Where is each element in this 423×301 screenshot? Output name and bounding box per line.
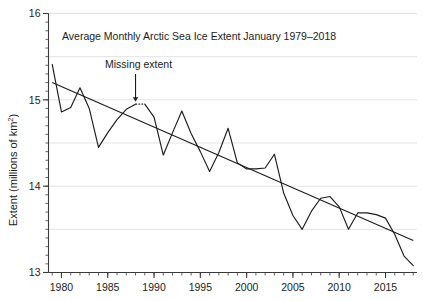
y-tick-label: 15 (29, 94, 41, 106)
data-series-line (52, 64, 413, 265)
y-axis-label-main: Extent (millions of km (7, 122, 19, 227)
x-tick-label: 1985 (96, 281, 120, 293)
y-axis-label: Extent (millions of km2) (6, 114, 20, 226)
y-axis-label-tail: ) (7, 114, 19, 118)
arctic-sea-ice-extent-line-chart: 13141516 1980198519901995200020052010201… (0, 0, 423, 301)
x-tick-label: 1990 (142, 281, 166, 293)
chart-figure: 13141516 1980198519901995200020052010201… (0, 0, 423, 301)
y-tick-label: 14 (29, 180, 41, 192)
chart-title: Average Monthly Arctic Sea Ice Extent Ja… (62, 30, 336, 42)
trend-line (52, 83, 413, 241)
svg-text:Extent (millions of km2): Extent (millions of km2) (6, 114, 20, 226)
gridlines (49, 14, 418, 230)
y-tick-label: 13 (29, 266, 41, 278)
y-tick-label: 16 (29, 7, 41, 19)
x-tick-label: 2010 (328, 281, 352, 293)
missing-extent-arrow-icon (133, 74, 138, 102)
x-tick-label: 1980 (50, 281, 74, 293)
y-axis-tick-labels: 13141516 (29, 7, 41, 278)
x-tick-label: 2005 (281, 281, 305, 293)
x-axis-tick-labels: 19801985199019952000200520102015 (50, 281, 398, 293)
missing-extent-annotation-label: Missing extent (105, 58, 172, 70)
x-tick-label: 2000 (235, 281, 259, 293)
x-tick-label: 2015 (374, 281, 398, 293)
x-tick-label: 1995 (189, 281, 213, 293)
x-axis-major-ticks (61, 273, 385, 279)
